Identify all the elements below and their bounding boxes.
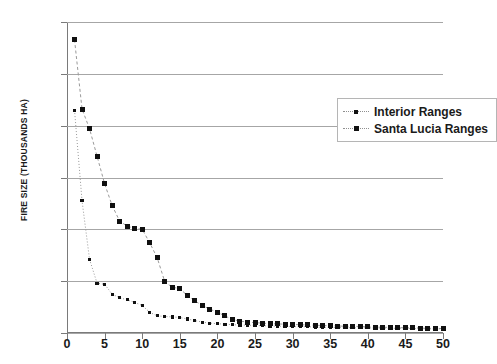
data-point xyxy=(171,315,174,318)
legend-item-interior-ranges: Interior Ranges xyxy=(343,103,488,120)
legend-label-santa-lucia: Santa Lucia Ranges xyxy=(374,122,488,136)
data-point xyxy=(283,322,288,327)
data-point xyxy=(80,107,85,112)
data-point xyxy=(207,307,212,312)
x-tick-label-30: 30 xyxy=(273,337,313,351)
data-point xyxy=(350,324,355,329)
data-point xyxy=(231,323,234,326)
data-point xyxy=(320,323,325,328)
x-tick-mark-35 xyxy=(330,333,331,339)
data-point xyxy=(335,324,340,329)
series-line-interior xyxy=(75,110,443,329)
data-point xyxy=(373,325,378,330)
x-tick-mark-5 xyxy=(105,333,106,339)
data-point xyxy=(403,325,408,330)
data-point xyxy=(103,283,106,286)
x-tick-label-45: 45 xyxy=(385,337,425,351)
data-point xyxy=(125,224,130,229)
data-point xyxy=(80,199,83,202)
legend-marker-santa-lucia-icon xyxy=(343,123,369,135)
data-point xyxy=(358,324,363,329)
data-point xyxy=(275,321,280,326)
series-line-santa-lucia xyxy=(75,40,443,329)
x-tick-mark-20 xyxy=(217,333,218,339)
series-connector-lines xyxy=(67,22,443,333)
data-point xyxy=(88,258,91,261)
x-tick-label-25: 25 xyxy=(235,337,275,351)
data-point xyxy=(388,325,393,330)
data-point xyxy=(290,322,295,327)
data-point xyxy=(208,322,211,325)
legend-marker-interior-icon xyxy=(343,106,369,118)
data-point xyxy=(222,313,227,318)
data-point xyxy=(433,326,438,331)
x-tick-label-0: 0 xyxy=(47,337,87,351)
x-tick-mark-10 xyxy=(142,333,143,339)
x-tick-mark-15 xyxy=(180,333,181,339)
data-point xyxy=(148,311,151,314)
y-axis-title: FIRE SIZE (THOUSANDS HA) xyxy=(19,70,29,250)
data-point xyxy=(365,324,370,329)
data-point xyxy=(117,219,122,224)
x-tick-label-50: 50 xyxy=(423,337,463,351)
data-point xyxy=(170,285,175,290)
data-point xyxy=(418,326,423,331)
data-point xyxy=(395,325,400,330)
data-point xyxy=(140,227,145,232)
x-tick-mark-45 xyxy=(405,333,406,339)
data-point xyxy=(126,298,129,301)
data-point xyxy=(200,303,205,308)
data-point xyxy=(305,322,310,327)
data-point xyxy=(298,322,303,327)
data-point xyxy=(192,298,197,303)
data-point xyxy=(87,126,92,131)
data-point xyxy=(410,325,415,330)
data-point xyxy=(156,314,159,317)
x-tick-label-5: 5 xyxy=(85,337,125,351)
data-point xyxy=(237,319,242,324)
data-point xyxy=(201,321,204,324)
data-point xyxy=(110,203,115,208)
data-point xyxy=(425,326,430,331)
data-point xyxy=(132,226,137,231)
x-tick-label-10: 10 xyxy=(122,337,162,351)
data-point xyxy=(141,304,144,307)
x-tick-mark-0 xyxy=(67,333,68,339)
plot-area: 0102030405060 05101520253035404550 Inter… xyxy=(67,22,443,333)
x-tick-mark-40 xyxy=(368,333,369,339)
data-point xyxy=(111,293,114,296)
data-point xyxy=(223,323,226,326)
data-point xyxy=(178,316,181,319)
data-point xyxy=(163,315,166,318)
data-point xyxy=(133,301,136,304)
data-point xyxy=(328,323,333,328)
x-tick-mark-50 xyxy=(443,333,444,339)
data-point xyxy=(380,325,385,330)
data-point xyxy=(162,279,167,284)
data-point xyxy=(95,282,98,285)
data-point xyxy=(102,181,107,186)
data-point xyxy=(185,293,190,298)
data-point xyxy=(193,319,196,322)
legend-label-interior: Interior Ranges xyxy=(374,105,462,119)
data-point xyxy=(72,37,77,42)
data-point xyxy=(268,321,273,326)
data-point xyxy=(73,109,76,112)
data-point xyxy=(118,296,121,299)
data-point xyxy=(155,255,160,260)
data-point xyxy=(216,322,219,325)
x-tick-label-40: 40 xyxy=(348,337,388,351)
data-point xyxy=(343,324,348,329)
data-point xyxy=(215,310,220,315)
x-tick-label-20: 20 xyxy=(197,337,237,351)
data-point xyxy=(238,323,241,326)
data-point xyxy=(147,240,152,245)
data-point xyxy=(95,154,100,159)
data-point xyxy=(441,326,446,331)
data-point xyxy=(253,320,258,325)
chart-legend: Interior Ranges Santa Lucia Ranges xyxy=(337,98,497,142)
data-point xyxy=(230,317,235,322)
data-point xyxy=(186,317,189,320)
legend-item-santa-lucia-ranges: Santa Lucia Ranges xyxy=(343,120,488,137)
